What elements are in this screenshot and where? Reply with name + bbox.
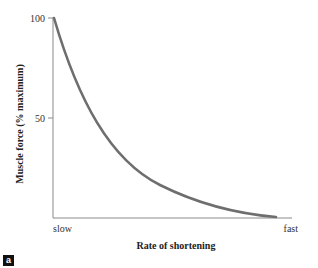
panel-label: a: [3, 255, 14, 266]
y-tick-label-50: 50: [35, 113, 45, 124]
force-velocity-curve: [54, 18, 276, 217]
y-tick-label-100: 100: [30, 13, 45, 24]
y-axis-title: Muscle force (% maximum): [14, 64, 26, 184]
x-axis-title: Rate of shortening: [137, 240, 216, 251]
force-velocity-chart: 100 50 slow fast Rate of shortening Musc…: [0, 0, 318, 268]
x-tick-label-slow: slow: [53, 223, 73, 234]
x-tick-label-fast: fast: [284, 223, 299, 234]
